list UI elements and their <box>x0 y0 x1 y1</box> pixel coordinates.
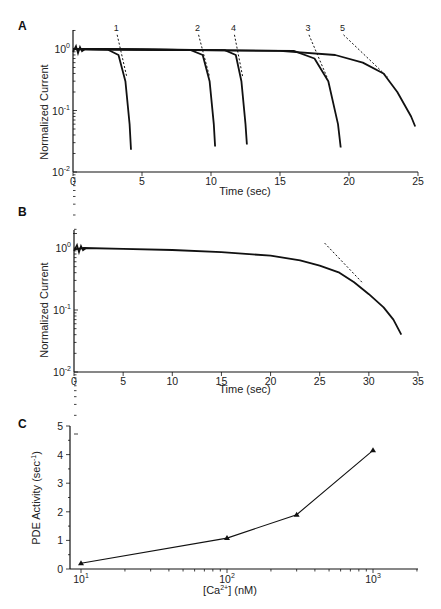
x-tick-label: 25 <box>314 375 326 387</box>
y-tick-label: 5 <box>57 420 63 432</box>
y-tick-label: 10-1 <box>53 303 71 316</box>
fit-line <box>199 35 210 77</box>
panel-a-xlabel: Time (sec) <box>219 185 271 197</box>
pde-activity-line <box>81 450 373 563</box>
y-tick-label: 10-1 <box>52 104 70 117</box>
x-tick-label: 20 <box>343 175 355 187</box>
panel-b-chart: 10010-110-205101520253035 <box>53 229 424 434</box>
x-tick-label: 10 <box>166 375 178 387</box>
trace-annotation: 2 <box>195 23 200 33</box>
y-tick-label: 4 <box>57 449 63 461</box>
y-tick-label: 3 <box>57 477 63 489</box>
trace-annotation: 5 <box>340 23 345 33</box>
data-trace <box>74 248 401 335</box>
x-tick-label: 101 <box>73 572 89 585</box>
trace-annotation: 3 <box>305 23 310 33</box>
panel-b-xlabel: Time (sec) <box>219 383 271 395</box>
y-tick-label: 100 <box>55 241 71 254</box>
panel-c-xlabel: [Ca2+] (nM) <box>203 584 257 596</box>
data-trace <box>73 49 247 145</box>
panel-a-label: A <box>18 19 27 33</box>
panel-a-ylabel: Normalized Current <box>38 64 50 159</box>
y-tick-label: 100 <box>54 42 70 55</box>
y-tick-label: 10-2 <box>52 165 70 178</box>
x-tick-label: 25 <box>412 175 424 187</box>
x-tick-label: 0 <box>71 375 77 387</box>
y-tick-label: 0 <box>57 563 63 575</box>
panel-b-label: B <box>18 205 27 219</box>
y-tick-label: 10-2 <box>53 365 71 378</box>
y-tick-label: 2 <box>57 506 63 518</box>
data-trace <box>73 49 131 150</box>
x-tick-label: 10 <box>205 175 217 187</box>
data-trace <box>73 49 215 147</box>
x-tick-label: 30 <box>363 375 375 387</box>
fit-line <box>309 35 327 77</box>
x-tick-label: 15 <box>274 175 286 187</box>
trace-annotation: 4 <box>231 23 236 33</box>
figure: A B C 10010-110-2051015202512435 10010-1… <box>0 0 441 609</box>
fit-line <box>325 243 362 282</box>
panel-a-chart: 10010-110-2051015202512435 <box>52 23 424 234</box>
triangle-marker <box>370 447 376 452</box>
x-tick-label: 5 <box>120 375 126 387</box>
panel-c-chart: 012345101102103 <box>57 420 418 585</box>
panel-c-ylabel: PDE Activity (sec-1) <box>30 451 42 545</box>
panel-c-label: C <box>18 417 27 431</box>
panel-b-ylabel: Normalized Current <box>38 262 50 357</box>
y-tick-label: 1 <box>57 534 63 546</box>
x-tick-label: 0 <box>70 175 76 187</box>
trace-annotation: 1 <box>114 23 119 33</box>
x-tick-label: 35 <box>412 375 424 387</box>
x-tick-label: 5 <box>139 175 145 187</box>
fit-line <box>343 35 387 77</box>
x-tick-label: 103 <box>365 572 381 585</box>
data-trace <box>73 49 341 148</box>
